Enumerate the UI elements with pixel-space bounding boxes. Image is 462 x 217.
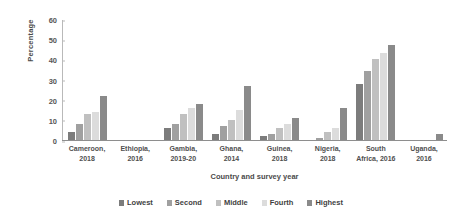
x-axis-tick-labels: Cameroon,2018Ethiopia,2016Gambia,2019-20…	[63, 144, 448, 163]
x-axis-category-label: Uganda,2016	[400, 144, 448, 163]
bar-group	[399, 20, 447, 140]
bar	[244, 86, 251, 140]
legend-swatch-icon	[167, 200, 172, 206]
y-axis-tick-60: 60	[49, 16, 62, 25]
bar	[188, 108, 195, 140]
legend-item[interactable]: Highest	[307, 198, 343, 207]
bar-group	[351, 20, 399, 140]
bar	[164, 128, 171, 140]
bar	[372, 59, 379, 140]
bar-group	[303, 20, 351, 140]
x-axis-category-label: Cameroon,2018	[63, 144, 111, 163]
bar	[212, 134, 219, 140]
bar	[68, 132, 75, 140]
y-axis-tick-10: 10	[49, 116, 62, 125]
bar	[100, 96, 107, 140]
bar	[284, 124, 291, 140]
legend-item[interactable]: Fourth	[262, 198, 294, 207]
bar	[196, 104, 203, 140]
y-axis-title: Percentage	[26, 0, 35, 101]
legend-item-label: Lowest	[127, 198, 153, 207]
bar-chart: Percentage 0102030405060 Cameroon,2018Et…	[0, 0, 462, 217]
bar	[356, 84, 363, 140]
bar	[388, 45, 395, 140]
x-axis-category-label: Ethiopia,2016	[111, 144, 159, 163]
bar	[172, 124, 179, 140]
bar	[340, 108, 347, 140]
bar	[220, 126, 227, 140]
bar	[436, 134, 443, 140]
x-axis-title: Country and survey year	[62, 172, 447, 181]
y-axis-tick-30: 30	[49, 76, 62, 85]
x-axis-category-label: SouthAfrica, 2016	[352, 144, 400, 163]
legend-item[interactable]: Lowest	[119, 198, 153, 207]
legend-swatch-icon	[216, 200, 221, 206]
legend-item[interactable]: Middle	[216, 198, 248, 207]
bar-group	[159, 20, 207, 140]
bar	[380, 53, 387, 140]
bar	[268, 134, 275, 140]
bar	[180, 114, 187, 140]
bar	[332, 128, 339, 140]
bar	[260, 136, 267, 140]
bar-group	[63, 20, 111, 140]
legend-item-label: Middle	[224, 198, 248, 207]
bar	[292, 118, 299, 140]
bar	[316, 138, 323, 140]
x-axis-line	[62, 140, 447, 141]
bar	[364, 71, 371, 140]
bar	[324, 132, 331, 140]
legend-item[interactable]: Second	[167, 198, 202, 207]
bar	[84, 114, 91, 140]
bar-group	[255, 20, 303, 140]
legend-item-label: Fourth	[270, 198, 294, 207]
legend-swatch-icon	[119, 200, 124, 206]
x-axis-category-label: Nigeria,2018	[304, 144, 352, 163]
bar-groups	[63, 20, 447, 140]
legend-item-label: Second	[175, 198, 202, 207]
bar	[276, 128, 283, 140]
x-axis-category-label: Gambia,2019-20	[159, 144, 207, 163]
legend-swatch-icon	[307, 200, 312, 206]
bar	[236, 110, 243, 140]
chart-legend: LowestSecondMiddleFourthHighest	[0, 198, 462, 207]
y-axis-tick-40: 40	[49, 56, 62, 65]
y-axis-tick-50: 50	[49, 36, 62, 45]
x-axis-category-label: Ghana,2014	[207, 144, 255, 163]
bar	[92, 112, 99, 140]
legend-item-label: Highest	[315, 198, 343, 207]
bar-group	[207, 20, 255, 140]
y-axis-tick-20: 20	[49, 96, 62, 105]
legend-swatch-icon	[262, 200, 267, 206]
bar	[228, 120, 235, 140]
plot-area: 0102030405060	[62, 20, 447, 141]
x-axis-category-label: Guinea,2018	[256, 144, 304, 163]
bar-group	[111, 20, 159, 140]
bar	[76, 124, 83, 140]
y-axis-tick-0: 0	[53, 137, 62, 146]
